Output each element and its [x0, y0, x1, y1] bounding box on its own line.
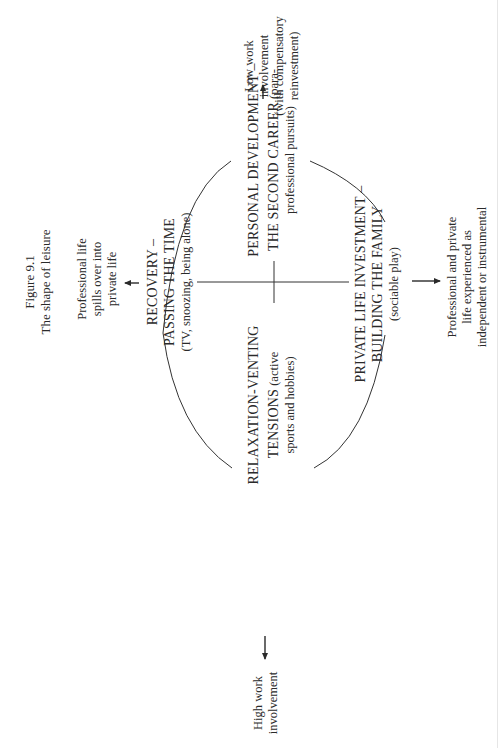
arc-bottom-left: [163, 333, 232, 468]
figure-number: Figure 9.1: [22, 229, 38, 334]
diagram-canvas: Figure 9.1 The shape of leisure Professi…: [0, 0, 501, 748]
quadrant-private-life: PRIVATE LIFE INVESTMENT – BUILDING THE F…: [353, 186, 402, 383]
quadrant-personal-development: PERSONAL DEVELOPMENT – THE SECOND CAREER…: [246, 63, 298, 256]
bottom-axis-label: High work involvement: [251, 672, 281, 735]
right-axis-label: Professional and private life experience…: [445, 207, 490, 347]
quadrant-relaxation: RELAXATION-VENTING TENSIONS (active spor…: [246, 325, 298, 484]
quadrant-recovery: RECOVERY – PASSING THE TIME (TV, snoozin…: [145, 213, 194, 352]
figure-caption: Figure 9.1 The shape of leisure: [22, 229, 53, 334]
figure-title: The shape of leisure: [38, 229, 54, 334]
page-edge: [497, 0, 498, 748]
left-axis-label: Professional life spills over into priva…: [75, 238, 120, 320]
